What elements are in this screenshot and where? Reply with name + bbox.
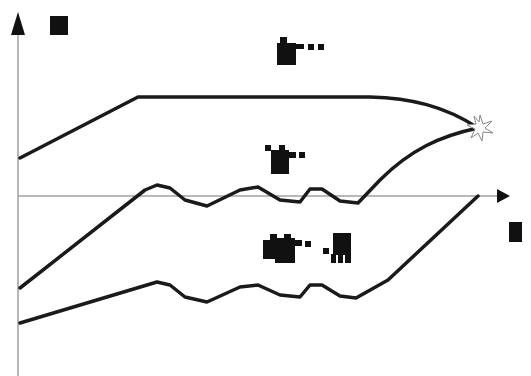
label-middle-curve — [265, 145, 305, 174]
middle-curve — [20, 128, 478, 288]
label-x-axis — [509, 222, 522, 242]
diagram-canvas — [0, 0, 531, 376]
curves — [20, 97, 478, 323]
label-y-axis — [50, 16, 68, 35]
y-axis-arrow-icon — [11, 12, 25, 35]
label-lower-region — [263, 233, 351, 263]
axes — [11, 12, 510, 376]
upper-curve — [20, 97, 478, 158]
x-axis-arrow-icon — [497, 189, 510, 203]
label-upper-region — [277, 37, 324, 65]
lower-curve — [20, 196, 478, 323]
